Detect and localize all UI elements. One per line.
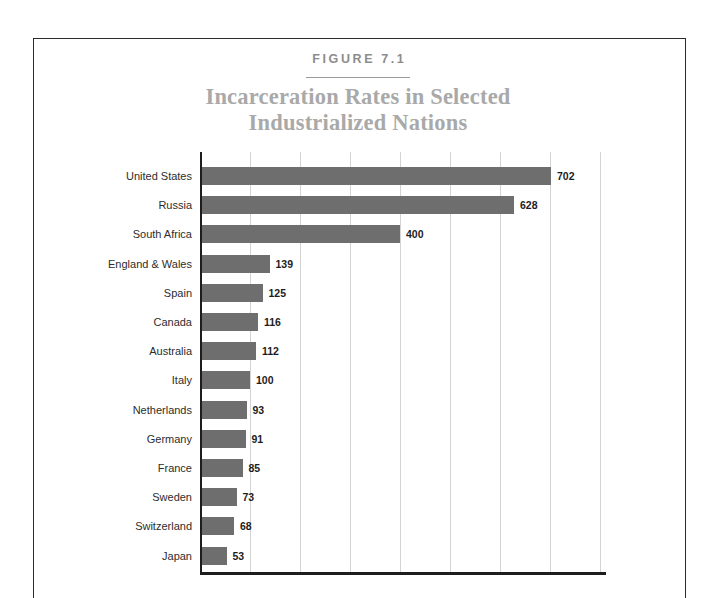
bar-value-label: 91 xyxy=(252,430,264,448)
gridline-200 xyxy=(300,152,301,575)
category-label-united-states: United States xyxy=(12,167,192,185)
bar-row: 53 xyxy=(200,547,606,565)
bar-australia xyxy=(200,342,256,360)
chart-title-line-1: Incarceration Rates in Selected xyxy=(0,84,716,110)
y-axis-line xyxy=(200,152,202,575)
bar-value-label: 125 xyxy=(269,284,287,302)
bar-value-label: 73 xyxy=(243,488,255,506)
bar-chart-plot-area: 702628400139125116112100939185736853 xyxy=(200,152,606,575)
category-label-russia: Russia xyxy=(12,196,192,214)
bar-row: 125 xyxy=(200,284,606,302)
bar-japan xyxy=(200,547,227,565)
bar-england-wales xyxy=(200,255,270,273)
category-label-canada: Canada xyxy=(12,313,192,331)
gridline-800 xyxy=(600,152,601,575)
bar-netherlands xyxy=(200,401,247,419)
bar-row: 139 xyxy=(200,255,606,273)
bar-value-label: 139 xyxy=(276,255,294,273)
bar-row: 702 xyxy=(200,167,606,185)
bar-germany xyxy=(200,430,246,448)
category-label-australia: Australia xyxy=(12,342,192,360)
bar-row: 112 xyxy=(200,342,606,360)
bar-row: 100 xyxy=(200,371,606,389)
bar-value-label: 93 xyxy=(253,401,265,419)
bar-row: 116 xyxy=(200,313,606,331)
chart-title: Incarceration Rates in Selected Industri… xyxy=(0,84,716,136)
bar-switzerland xyxy=(200,517,234,535)
gridline-100 xyxy=(250,152,251,575)
category-label-japan: Japan xyxy=(12,547,192,565)
bar-value-label: 53 xyxy=(233,547,245,565)
figure-divider-rule xyxy=(306,77,410,78)
gridline-700 xyxy=(550,152,551,575)
bar-value-label: 628 xyxy=(520,196,538,214)
x-axis-line xyxy=(200,572,606,575)
bar-value-label: 116 xyxy=(264,313,281,331)
category-label-sweden: Sweden xyxy=(12,488,192,506)
bar-row: 68 xyxy=(200,517,606,535)
bar-south-africa xyxy=(200,225,400,243)
bar-value-label: 85 xyxy=(249,459,261,477)
category-label-switzerland: Switzerland xyxy=(12,517,192,535)
chart-title-line-2: Industrialized Nations xyxy=(0,110,716,136)
bar-value-label: 400 xyxy=(406,225,424,243)
gridline-600 xyxy=(500,152,501,575)
gridline-300 xyxy=(350,152,351,575)
category-label-france: France xyxy=(12,459,192,477)
bar-sweden xyxy=(200,488,237,506)
bar-value-label: 702 xyxy=(557,167,575,185)
bar-value-label: 68 xyxy=(240,517,252,535)
category-label-spain: Spain xyxy=(12,284,192,302)
category-label-netherlands: Netherlands xyxy=(12,401,192,419)
category-label-south-africa: South Africa xyxy=(12,225,192,243)
figure-number-label: FIGURE 7.1 xyxy=(0,52,716,66)
bar-france xyxy=(200,459,243,477)
bar-row: 85 xyxy=(200,459,606,477)
bar-italy xyxy=(200,371,250,389)
bar-row: 400 xyxy=(200,225,606,243)
bar-row: 73 xyxy=(200,488,606,506)
bar-value-label: 100 xyxy=(256,371,274,389)
category-label-italy: Italy xyxy=(12,371,192,389)
bar-row: 628 xyxy=(200,196,606,214)
bar-united-states xyxy=(200,167,551,185)
bar-row: 91 xyxy=(200,430,606,448)
gridline-500 xyxy=(450,152,451,575)
bar-spain xyxy=(200,284,263,302)
bar-row: 93 xyxy=(200,401,606,419)
bar-russia xyxy=(200,196,514,214)
figure-heading: FIGURE 7.1 xyxy=(0,52,716,78)
bar-canada xyxy=(200,313,258,331)
category-label-germany: Germany xyxy=(12,430,192,448)
category-label-england-wales: England & Wales xyxy=(12,255,192,273)
bar-value-label: 112 xyxy=(262,342,279,360)
gridline-400 xyxy=(400,152,401,575)
